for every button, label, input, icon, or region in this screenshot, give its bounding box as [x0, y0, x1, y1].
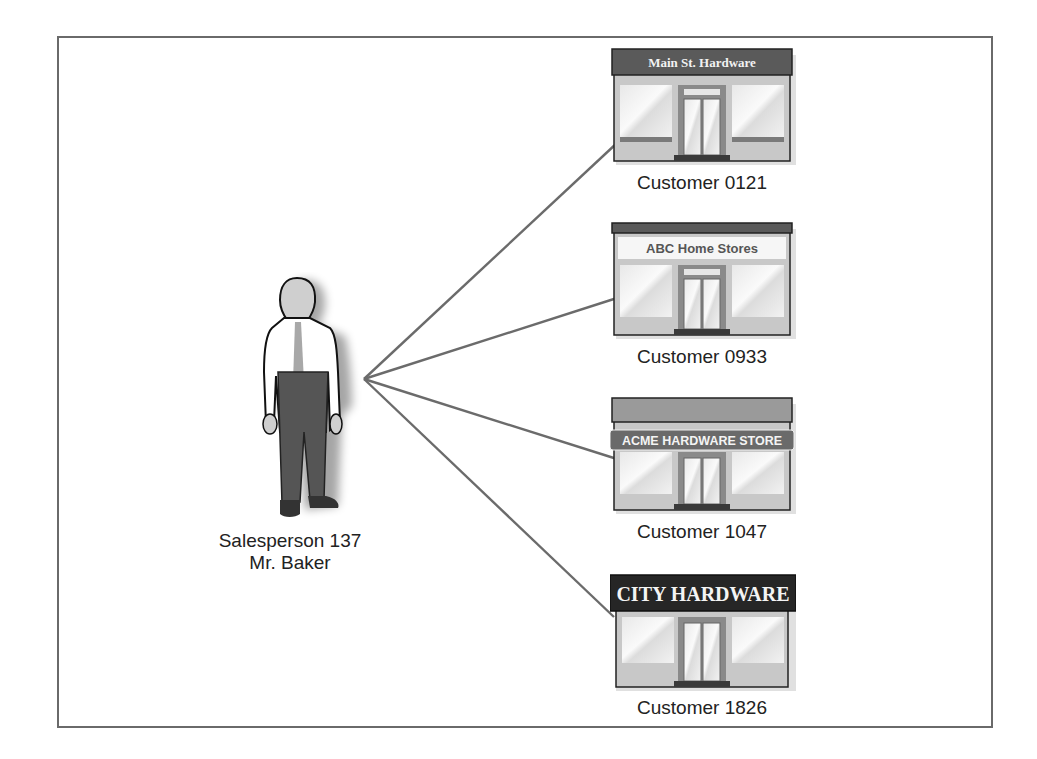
storefront-icon: CITY HARDWARE [610, 573, 796, 691]
store-sign: ABC Home Stores [646, 241, 758, 256]
person-icon [240, 272, 370, 522]
customer-store-1047: ACME HARDWARE STORE [610, 396, 796, 514]
salesperson-label: Salesperson 137 Mr. Baker [190, 530, 390, 574]
customer-store-0121: Main St. Hardware [610, 47, 796, 165]
customer-store-0933: ABC Home Stores [610, 221, 796, 339]
connector-0933 [364, 298, 617, 379]
salesperson-figure [240, 272, 370, 522]
customer-store-1826: CITY HARDWARE [610, 573, 796, 691]
storefront-icon: ABC Home Stores [610, 221, 796, 339]
store-sign: ACME HARDWARE STORE [622, 434, 782, 448]
connector-1826 [364, 379, 614, 617]
customer-label-1826: Customer 1826 [590, 697, 814, 719]
salesperson-name: Mr. Baker [190, 552, 390, 574]
customer-label-1047: Customer 1047 [590, 521, 814, 543]
customer-label-0933: Customer 0933 [590, 346, 814, 368]
store-sign: Main St. Hardware [648, 55, 756, 70]
salesperson-id: Salesperson 137 [190, 530, 390, 552]
store-sign: CITY HARDWARE [616, 583, 789, 605]
connector-1047 [364, 379, 617, 459]
customer-label-0121: Customer 0121 [590, 172, 814, 194]
storefront-icon: Main St. Hardware [610, 47, 796, 165]
connector-0121 [364, 143, 617, 379]
connector-lines [0, 0, 1037, 759]
storefront-icon: ACME HARDWARE STORE [610, 396, 796, 514]
